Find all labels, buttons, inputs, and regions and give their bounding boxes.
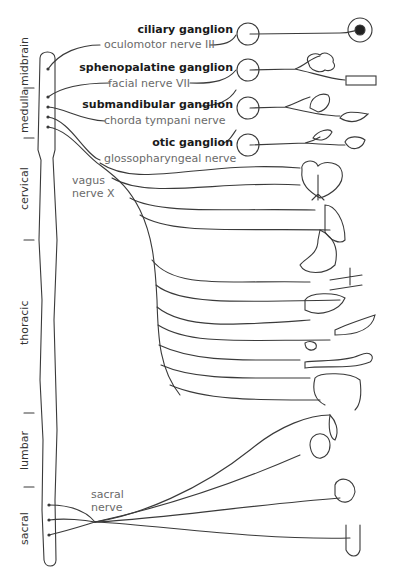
ganglia-circles [237,23,259,156]
kidney-icon [310,434,330,458]
region-label-midbrain: midbrain [18,37,31,86]
lacrimal-gland-icon [307,53,334,72]
submandibular-gland-icon [310,94,330,112]
heart-icon [302,161,343,198]
sacral-branches [95,415,350,538]
submandibular-ganglion-label: submandibular ganglion [82,98,233,111]
otic-ganglion-label: otic ganglion [152,136,233,149]
lung-icon [325,205,345,242]
stomach-icon [300,230,336,273]
vagus-branches [100,163,340,400]
sphenopalatine-ganglion-label: sphenopalatine ganglion [79,61,233,74]
eye-icon [348,18,372,42]
facial-nerve-label: facial nerve VII [108,77,190,90]
diagram-canvas [0,0,393,574]
rectum-icon [329,415,337,440]
parotid-tissue-icon [345,137,365,149]
sacral-nerve-label-line2: nerve [91,501,123,514]
gallbladder-icon [305,342,316,350]
bladder-icon [335,479,355,502]
pancreas-icon [335,315,375,335]
sublingual-gland-icon [340,112,368,121]
region-label-cervical: cervical [18,167,31,210]
blood-vessels-icon [330,268,362,290]
trachea-icon [312,175,324,200]
genitals-icon [346,525,360,556]
region-label-lumbar: lumbar [18,431,31,470]
liver-icon [305,294,345,313]
ciliary-ganglion-label: ciliary ganglion [137,23,233,36]
oculomotor-nerve-label: oculomotor nerve III [104,38,215,51]
small-intestine-icon [305,353,372,368]
region-label-medulla: medulla [18,89,31,133]
region-label-thoracic: thoracic [18,301,31,345]
vagus-nerve-trunk [48,127,180,395]
vagus-nerve-label-line2: nerve X [72,187,115,200]
nasal-mucosa-icon [346,76,376,85]
glossopharyngeal-nerve-label: glossopharyngeal nerve [104,152,236,165]
region-label-sacral: sacral [18,512,31,545]
sacral-nerve-label-line1: sacral [91,488,124,501]
nerve-origins [46,67,50,536]
parotid-gland-icon [313,130,332,140]
region-dividers [24,88,34,487]
colon-icon [314,374,361,410]
spinal-cord-outline [38,52,57,566]
vagus-nerve-label-line1: vagus [72,174,105,187]
chorda-tympani-nerve-label: chorda tympani nerve [104,114,226,127]
